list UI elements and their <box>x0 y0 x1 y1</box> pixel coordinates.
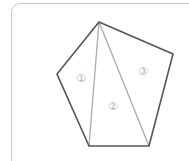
pentagon-diagram: ① ② ③ <box>0 0 189 161</box>
region-label-1: ① <box>76 72 86 85</box>
diagonal-top-to-bottom-left <box>89 22 99 146</box>
region-label-2: ② <box>108 100 118 113</box>
region-label-3: ③ <box>138 65 148 78</box>
pentagon-outline <box>57 22 173 146</box>
